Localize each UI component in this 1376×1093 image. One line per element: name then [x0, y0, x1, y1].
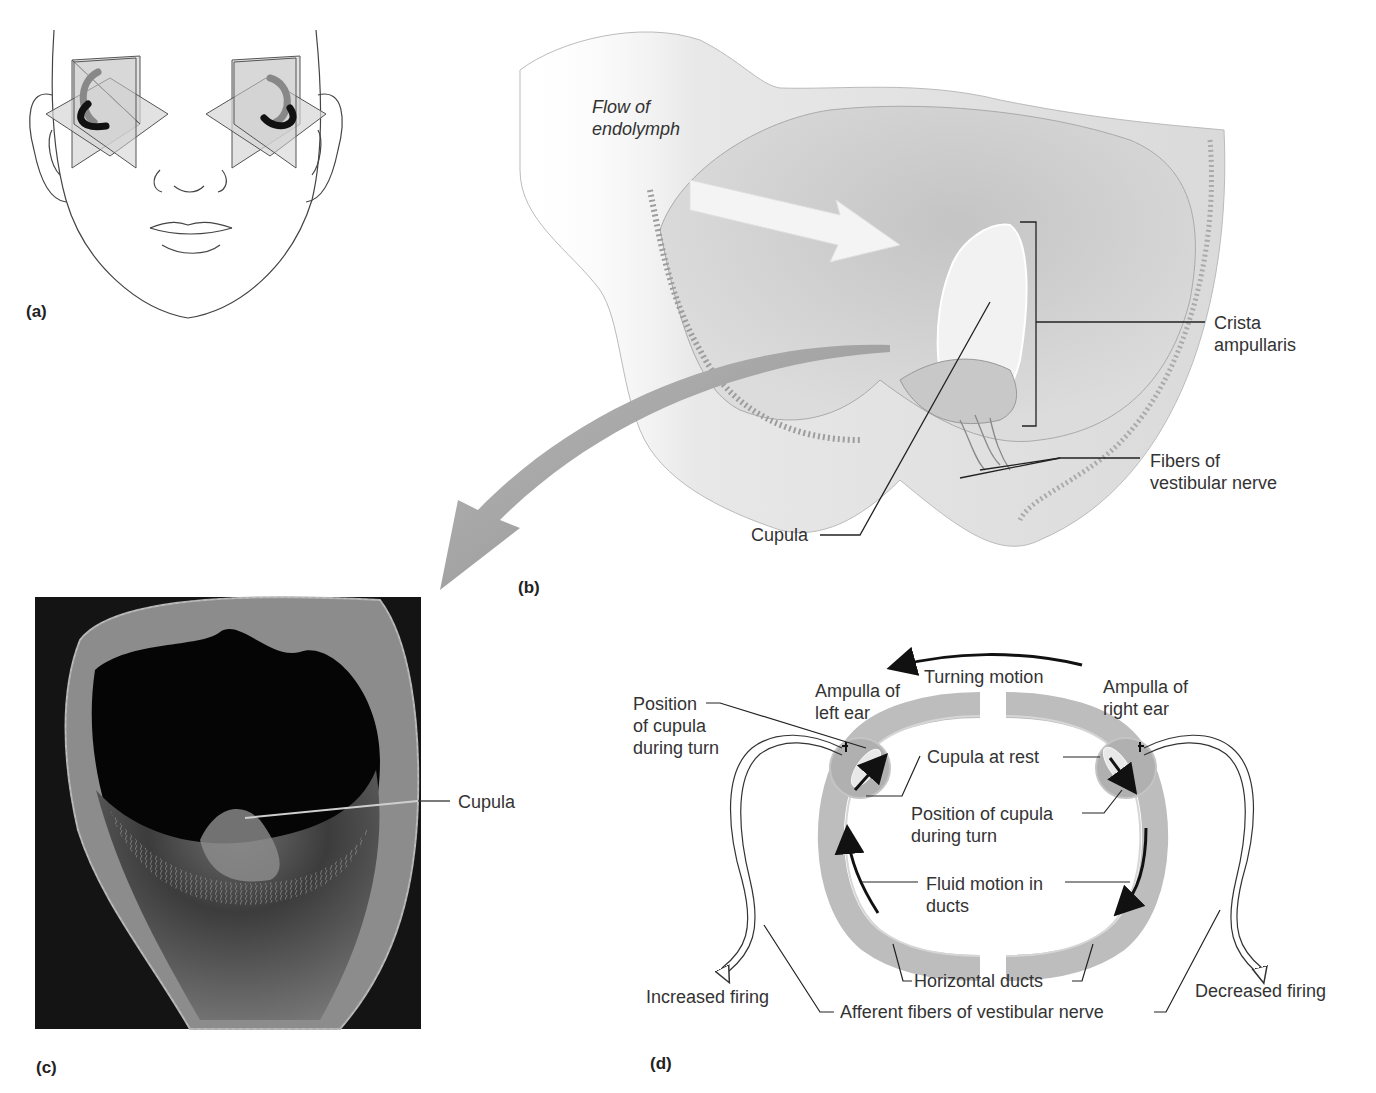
- label-ampulla-right-ear: Ampulla of right ear: [1103, 676, 1188, 720]
- increased-firing-arrowhead-icon: [722, 968, 726, 976]
- panel-label-d: (d): [650, 1054, 672, 1074]
- label-cupula-at-rest: Cupula at rest: [927, 746, 1039, 768]
- label-increased-firing: Increased firing: [646, 986, 769, 1008]
- label-fluid-motion: Fluid motion in ducts: [926, 873, 1043, 917]
- label-decreased-firing: Decreased firing: [1195, 980, 1326, 1002]
- decreased-firing-arrowhead-icon: [1260, 968, 1262, 976]
- label-horizontal-ducts: Horizontal ducts: [914, 970, 1043, 992]
- turning-motion-arrow-icon: [898, 655, 1082, 666]
- afferent-left-leader-line: [764, 925, 834, 1012]
- label-turning-motion: Turning motion: [924, 666, 1043, 688]
- label-ampulla-left-ear: Ampulla of left ear: [815, 680, 900, 724]
- label-position-cupula-left: Position of cupula during turn: [633, 693, 719, 759]
- horizontal-ducts-diagram: [0, 0, 1376, 1093]
- label-position-cupula-right: Position of cupula during turn: [911, 803, 1053, 847]
- label-afferent-fibers: Afferent fibers of vestibular nerve: [840, 1001, 1104, 1023]
